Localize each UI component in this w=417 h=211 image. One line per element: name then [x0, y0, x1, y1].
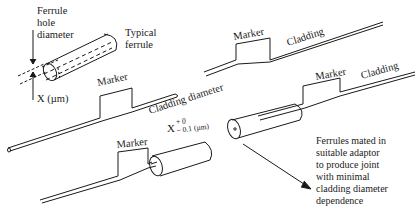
label-typical-1: Typical: [125, 27, 156, 38]
label-marker-middle: Marker: [96, 71, 129, 88]
label-cladding-top: Cladding: [285, 25, 326, 48]
label-tolerance-x: X: [167, 122, 175, 134]
label-marker-bottom: Marker: [116, 136, 148, 150]
ferrule-middle-right: [225, 72, 415, 140]
note-line-1: Ferrules mated in: [316, 135, 386, 146]
fiber-bottom: [40, 142, 212, 203]
note-line-6: dependence: [316, 195, 364, 206]
label-cladding-diameter: Cladding diameter: [147, 81, 225, 116]
label-typical-2: ferrule: [125, 39, 153, 50]
fiber-top: [204, 22, 383, 76]
hole-diameter-dimension: [30, 30, 36, 100]
label-ferrule-hole-2: hole: [37, 17, 55, 28]
note-line-3: to produce joint: [316, 159, 380, 170]
note-arrow: [243, 144, 311, 189]
note-line-5: cladding diameter: [316, 183, 389, 194]
note-line-2: suitable adaptor: [316, 147, 380, 158]
label-x-um: X (µm): [37, 93, 69, 105]
fiber-ferrule-diagram: Ferrule hole diameter Typical ferrule X …: [0, 0, 417, 211]
label-ferrule-hole-1: Ferrule: [37, 5, 68, 16]
note-line-4: with minimal: [316, 171, 370, 182]
label-ferrule-hole-3: diameter: [37, 29, 74, 40]
